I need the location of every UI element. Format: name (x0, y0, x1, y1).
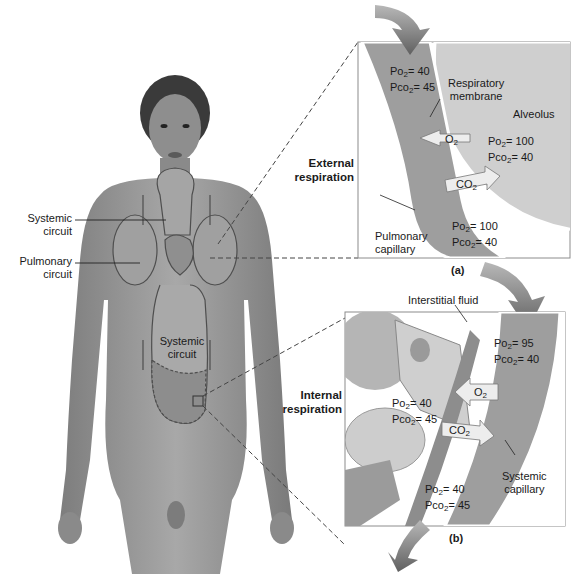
label-alveolus: Alveolus (513, 108, 555, 121)
label-systemic-circuit-upper: Systemic circuit (16, 212, 72, 238)
face (149, 94, 201, 162)
label-respiratory-membrane: Respiratory membrane (448, 77, 504, 103)
co2-arrow-label-b: CO2 (449, 424, 470, 438)
flow-arrow-out-b (388, 520, 430, 572)
label-external-respiration: External respiration (282, 156, 354, 184)
alveolus-values: Po2= 100 Pco2= 40 (488, 135, 534, 167)
internal-capillary-out-values: Po2= 40 Pco2= 45 (425, 483, 470, 515)
label-pulmonary-capillary: Pulmonary capillary (375, 230, 428, 256)
internal-capillary-in-values: Po2= 95 Pco2= 40 (494, 337, 539, 369)
co2-arrow-label-a: CO2 (456, 178, 477, 192)
panel-tag-a: (a) (451, 264, 464, 276)
label-systemic-circuit-lower: Systemic circuit (157, 335, 207, 361)
panel-tag-b: (b) (449, 532, 463, 544)
label-internal-respiration: Internal respiration (268, 388, 342, 416)
external-capillary-out-values: Po2= 100 Pco2= 40 (452, 220, 498, 252)
tissue-values: Po2= 40 Pco2= 45 (392, 397, 437, 429)
label-interstitial-fluid: Interstitial fluid (408, 294, 478, 307)
label-systemic-capillary: Systemic capillary (502, 470, 547, 496)
label-pulmonary-circuit: Pulmonary circuit (10, 255, 72, 281)
o2-arrow-label-a: O2 (445, 133, 458, 147)
external-capillary-in-values: Po2= 40 Pco2= 45 (390, 65, 435, 97)
o2-arrow-label-b: O2 (474, 386, 487, 400)
